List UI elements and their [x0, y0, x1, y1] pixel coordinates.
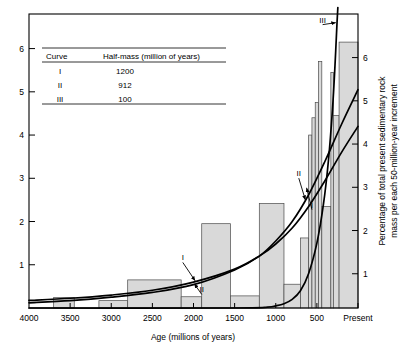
legend-row-0-curve: I: [59, 67, 61, 76]
histogram-bar: [300, 238, 308, 308]
histogram-bars: [54, 42, 358, 308]
histogram-bar: [181, 297, 202, 308]
histogram-bar: [202, 224, 231, 308]
x-tick-label: 2500: [143, 313, 162, 323]
annotation-label-ii: II: [297, 169, 301, 178]
histogram-bar: [284, 284, 300, 308]
chart-svg: 4000350030002500200015001000500Present 1…: [0, 0, 412, 360]
histogram-bar: [333, 116, 339, 308]
x-tick-label: 1000: [266, 313, 285, 323]
y-axis-left-tick-labels: 123456: [19, 44, 24, 270]
y-left-tick-label: 2: [19, 217, 24, 227]
annotation-label-iii: III: [319, 16, 326, 25]
histogram-bar: [339, 42, 358, 308]
y-axis-right-title-line1: Percentage of total present sedimentary …: [377, 76, 387, 246]
legend-header-curve: Curve: [46, 52, 68, 61]
legend-row-2-curve: III: [57, 95, 64, 104]
histogram-bar: [315, 103, 318, 308]
x-tick-label: 500: [310, 313, 324, 323]
legend-row-1-halfmass: 912: [118, 81, 132, 90]
y-axis-left-ticks: [29, 49, 35, 265]
y-left-tick-label: 5: [19, 87, 24, 97]
annotation-leader: [299, 178, 306, 200]
annotation-leader: [183, 262, 195, 280]
y-right-tick-label: 1: [363, 269, 368, 279]
legend-row-0-halfmass: 1200: [116, 67, 134, 76]
y-right-tick-label: 5: [363, 96, 368, 106]
y-right-tick-label: 3: [363, 182, 368, 192]
chart-figure: 4000350030002500200015001000500Present 1…: [0, 0, 412, 360]
annotation-label-ii: II: [199, 285, 203, 294]
histogram-bar: [322, 206, 331, 308]
x-tick-label: Present: [343, 313, 373, 323]
x-tick-label: 3500: [61, 313, 80, 323]
legend-header-halfmass: Half-mass (million of years): [103, 52, 200, 61]
y-right-tick-label: 6: [363, 53, 368, 63]
annotation-label-i: I: [311, 201, 313, 210]
x-axis-tick-labels: 4000350030002500200015001000500Present: [20, 313, 374, 323]
y-left-tick-label: 3: [19, 173, 24, 183]
x-tick-label: 3000: [102, 313, 121, 323]
x-axis-title: Age (millions of years): [151, 332, 235, 342]
y-left-tick-label: 4: [19, 130, 24, 140]
y-left-tick-label: 6: [19, 44, 24, 54]
annotation-label-i: I: [182, 253, 184, 262]
legend-row-2-halfmass: 100: [118, 95, 132, 104]
y-axis-right-title-line2: mass per each 50-million-year increment: [389, 84, 399, 238]
legend-row-1-curve: II: [58, 81, 62, 90]
histogram-bar: [312, 118, 315, 308]
histogram-bar: [319, 62, 322, 308]
y-axis-right-tick-labels: 123456: [363, 53, 368, 279]
legend-table: Curve Half-mass (million of years) I 120…: [42, 48, 226, 104]
x-tick-label: 4000: [20, 313, 39, 323]
histogram-bar: [259, 203, 284, 308]
y-right-tick-label: 4: [363, 139, 368, 149]
y-right-tick-label: 2: [363, 226, 368, 236]
x-tick-label: 1500: [225, 313, 244, 323]
y-left-tick-label: 1: [19, 260, 24, 270]
histogram-bar: [99, 301, 128, 308]
x-tick-label: 2000: [184, 313, 203, 323]
histogram-bar: [309, 135, 312, 308]
